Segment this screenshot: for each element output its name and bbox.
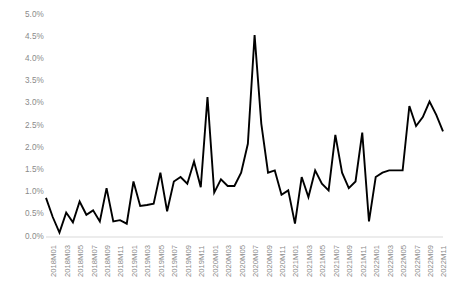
x-tick-label: 2022M09 xyxy=(426,245,435,277)
x-tick-label: 2021M03 xyxy=(305,245,314,277)
x-tick-label: 2018M03 xyxy=(63,245,72,277)
x-tick-label: 2020M11 xyxy=(278,246,287,277)
x-tick-label: 2019M07 xyxy=(170,245,179,277)
x-tick-label: 2020M05 xyxy=(238,245,247,277)
x-tick-label: 2019M11 xyxy=(197,246,206,277)
x-tick-label: 2021M09 xyxy=(345,245,354,277)
x-axis: 2018M012018M032018M052018M072018M092018M… xyxy=(0,0,452,296)
plot-area: 0.0%0.5%1.0%1.5%2.0%2.5%3.0%3.5%4.0%4.5%… xyxy=(0,0,452,296)
x-tick-label: 2020M03 xyxy=(224,245,233,277)
x-tick-label: 2018M01 xyxy=(49,245,58,277)
x-tick-label: 2018M05 xyxy=(76,245,85,277)
chart-container: 0.0%0.5%1.0%1.5%2.0%2.5%3.0%3.5%4.0%4.5%… xyxy=(0,0,452,296)
x-tick-label: 2022M01 xyxy=(372,245,381,277)
x-tick-label: 2018M09 xyxy=(103,245,112,277)
x-tick-label: 2021M11 xyxy=(359,246,368,277)
x-tick-label: 2019M01 xyxy=(130,245,139,277)
x-tick-label: 2018M07 xyxy=(90,245,99,277)
x-tick-label: 2020M01 xyxy=(211,245,220,277)
x-tick-label: 2021M01 xyxy=(291,245,300,277)
x-tick-label: 2019M05 xyxy=(157,245,166,277)
x-tick-label: 2018M11 xyxy=(116,246,125,277)
x-tick-label: 2021M05 xyxy=(318,245,327,277)
x-tick-label: 2019M03 xyxy=(143,245,152,277)
x-tick-label: 2020M09 xyxy=(265,245,274,277)
x-tick-label: 2022M03 xyxy=(386,245,395,277)
x-tick-label: 2022M05 xyxy=(399,245,408,277)
x-tick-label: 2020M07 xyxy=(251,245,260,277)
x-tick-label: 2022M11 xyxy=(439,246,448,277)
x-tick-label: 2021M07 xyxy=(332,245,341,277)
x-tick-label: 2019M09 xyxy=(184,245,193,277)
x-tick-label: 2022M07 xyxy=(413,245,422,277)
